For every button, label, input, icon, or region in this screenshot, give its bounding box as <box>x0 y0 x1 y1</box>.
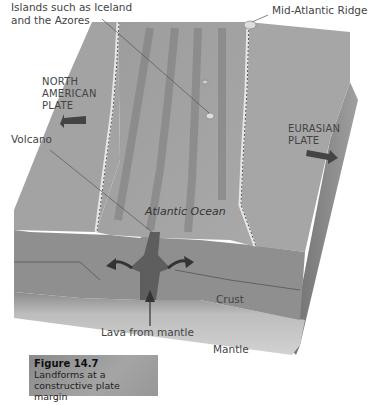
lava-from-mantle-label: Lava from mantle <box>101 326 194 339</box>
volcano-label: Volcano <box>11 133 52 146</box>
caption-line-1: Landforms at a <box>34 369 153 380</box>
figure-caption: Figure 14.7 Landforms at a constructive … <box>29 355 158 396</box>
eurasian-plate-label: EURASIAN PLATE <box>288 123 340 147</box>
crust-label: Crust <box>216 293 244 306</box>
figure-number: Figure 14.7 <box>34 358 153 369</box>
caption-line-2: constructive plate margin <box>34 380 153 402</box>
north-american-plate-label: NORTH AMERICAN PLATE <box>42 76 97 112</box>
atlantic-ocean-label: Atlantic Ocean <box>145 205 226 218</box>
islands-label: Islands such as Iceland and the Azores <box>11 1 132 27</box>
mid-atlantic-ridge-label: Mid-Atlantic Ridge <box>272 4 367 17</box>
north-american-plate-surface <box>14 22 120 232</box>
mantle-label: Mantle <box>213 343 249 356</box>
